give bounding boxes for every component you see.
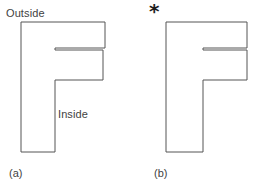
figure-b-f-shape — [0, 0, 263, 189]
caption-b: (b) — [154, 167, 167, 180]
f-outline-path-b — [166, 22, 247, 152]
asterisk-marker-icon: * — [149, 0, 159, 22]
